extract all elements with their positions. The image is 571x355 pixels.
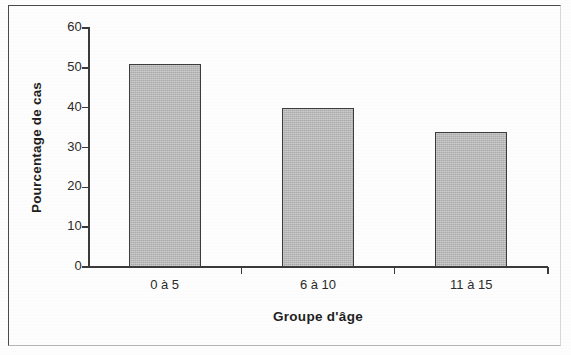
x-axis-category-label: 6 à 10: [258, 277, 378, 292]
y-axis-title: Pourcentage de cas: [29, 48, 44, 248]
bar: [435, 132, 507, 267]
x-axis-category-label: 0 à 5: [105, 277, 225, 292]
y-axis-tick: [82, 27, 89, 29]
y-axis-tick: [82, 226, 89, 228]
y-axis-tick: [82, 187, 89, 189]
bar: [282, 108, 354, 267]
bar-chart: Pourcentage de cas Groupe d'âge 01020304…: [0, 0, 571, 355]
y-axis-tick-label: 20: [48, 178, 82, 193]
y-axis-tick-label: 30: [48, 139, 82, 154]
x-axis-title: Groupe d'âge: [88, 309, 548, 324]
y-axis-tick-label: 10: [48, 218, 82, 233]
x-axis-category-label: 11 à 15: [411, 277, 531, 292]
y-axis-tick-label: 60: [48, 19, 82, 34]
x-axis-tick: [547, 267, 549, 274]
bar: [129, 64, 201, 267]
y-axis-tick: [82, 147, 89, 149]
y-axis-tick: [82, 67, 89, 69]
y-axis-tick-label: 0: [48, 258, 82, 273]
x-axis-tick: [241, 267, 243, 274]
y-axis-tick: [82, 107, 89, 109]
figure-page: Pourcentage de cas Groupe d'âge 01020304…: [0, 0, 571, 355]
y-axis-tick: [82, 266, 89, 268]
x-axis-tick: [394, 267, 396, 274]
y-axis-tick-label: 50: [48, 59, 82, 74]
y-axis-tick-label: 40: [48, 99, 82, 114]
